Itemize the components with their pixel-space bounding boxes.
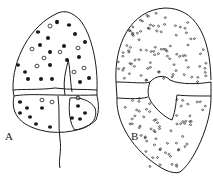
dots-a [16, 20, 91, 129]
hollow-dots-a [30, 24, 86, 104]
figure-illustration [0, 0, 213, 177]
panel-label-b: B [131, 131, 138, 142]
panel-label-a: A [5, 131, 13, 142]
cell-a [13, 12, 98, 168]
dots-b [117, 12, 207, 167]
cell-b [116, 8, 211, 173]
